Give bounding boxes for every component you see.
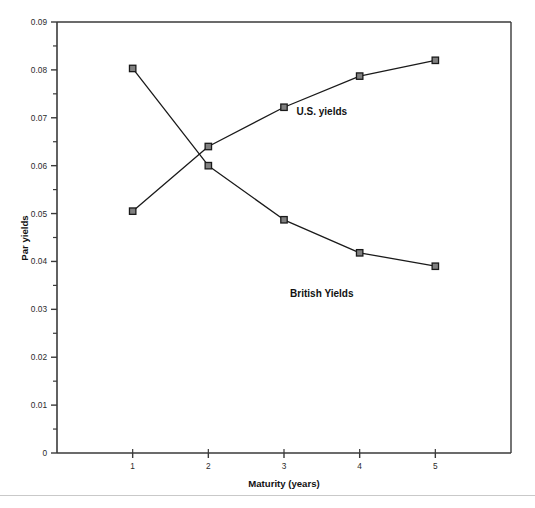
data-point-marker	[281, 217, 287, 223]
y-axis-tick-label: 0.06	[31, 161, 48, 171]
y-axis: 00.010.020.030.040.050.060.070.080.09	[31, 17, 57, 458]
y-axis-tick-label: 0.09	[31, 17, 48, 27]
x-axis-title: Maturity (years)	[248, 478, 319, 489]
series-line-british-yields	[133, 68, 436, 266]
data-series-group	[129, 57, 438, 269]
data-point-marker	[432, 263, 438, 269]
par-yields-line-chart: 00.010.020.030.040.050.060.070.080.09 12…	[0, 0, 535, 508]
y-axis-tick-label: 0.03	[31, 304, 48, 314]
data-point-marker	[281, 104, 287, 110]
chart-figure: 00.010.020.030.040.050.060.070.080.09 12…	[0, 0, 535, 508]
x-axis-tick-label: 2	[206, 461, 211, 471]
y-axis-tick-label: 0.07	[31, 113, 48, 123]
series-annotation-u-s-yields: U.S. yields	[297, 106, 348, 117]
footer-divider	[0, 495, 535, 496]
y-axis-tick-label: 0.04	[31, 256, 48, 266]
data-point-marker	[356, 73, 362, 79]
data-point-marker	[432, 57, 438, 63]
data-point-marker	[205, 143, 211, 149]
data-point-marker	[205, 162, 211, 168]
data-point-marker	[129, 208, 135, 214]
y-axis-tick-label: 0.05	[31, 209, 48, 219]
y-axis-tick-label: 0.08	[31, 65, 48, 75]
data-point-marker	[129, 65, 135, 71]
plot-frame	[57, 22, 511, 453]
series-annotations: U.S. yieldsBritish Yields	[290, 106, 354, 299]
x-axis-tick-label: 3	[282, 461, 287, 471]
y-axis-tick-label: 0.01	[31, 400, 48, 410]
x-axis-tick-label: 5	[433, 461, 438, 471]
data-point-marker	[356, 250, 362, 256]
x-axis-tick-label: 1	[130, 461, 135, 471]
series-line-u-s-yields	[133, 60, 436, 211]
series-annotation-british-yields: British Yields	[290, 288, 354, 299]
y-axis-tick-label: 0.02	[31, 352, 48, 362]
x-axis-tick-label: 4	[357, 461, 362, 471]
y-axis-title: Par yields	[19, 215, 30, 260]
y-axis-tick-label: 0	[42, 448, 47, 458]
